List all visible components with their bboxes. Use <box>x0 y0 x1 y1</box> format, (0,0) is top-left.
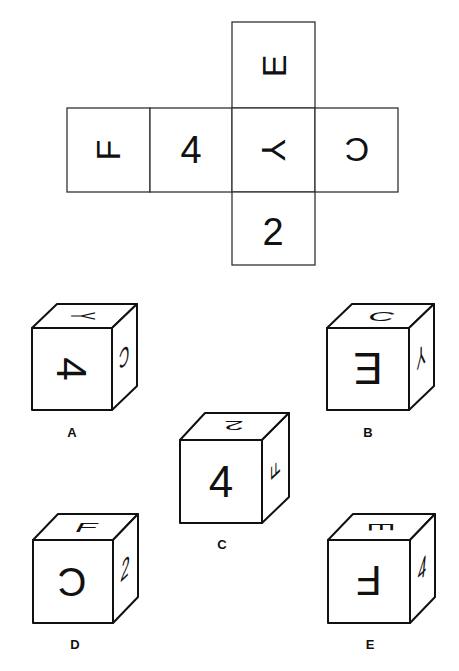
option-c-front-symbol: 4 <box>209 457 233 506</box>
cube-puzzle-diagram: E F 4 Y C 2 4 Y C A E C Y B 4 2 F C <box>0 0 459 671</box>
option-b-label: B <box>363 425 372 440</box>
net-symbol-left1: 4 <box>180 129 201 171</box>
net-symbol-top: E <box>255 55 293 78</box>
option-c-label: C <box>217 537 227 552</box>
net-symbol-bottom: 2 <box>262 211 283 253</box>
cube-net: E F 4 Y C 2 <box>67 22 398 265</box>
option-c-top-symbol: 2 <box>224 418 244 433</box>
option-d-label: D <box>70 637 79 652</box>
net-symbol-right: C <box>345 131 370 169</box>
option-d-front-symbol: C <box>58 560 87 604</box>
option-e-front-symbol: F <box>356 557 382 604</box>
option-e-top-symbol: E <box>361 523 401 531</box>
option-b-cube[interactable]: E C Y B <box>327 304 434 440</box>
option-a-front-symbol: 4 <box>48 357 95 380</box>
option-e-cube[interactable]: F E 4 E <box>328 514 435 652</box>
option-a-label: A <box>67 425 77 440</box>
net-symbol-center: Y <box>255 139 293 162</box>
option-a-cube[interactable]: 4 Y C A <box>32 304 137 440</box>
net-symbol-left2: F <box>89 140 127 161</box>
option-b-front-symbol: E <box>353 344 382 393</box>
option-d-top-symbol: F <box>75 520 99 535</box>
option-a-top-symbol: Y <box>63 312 103 320</box>
option-b-top-symbol: C <box>368 309 395 324</box>
option-c-cube[interactable]: 4 2 F C <box>180 413 289 552</box>
option-d-cube[interactable]: C F 2 D <box>33 514 138 652</box>
option-e-label: E <box>366 637 375 652</box>
